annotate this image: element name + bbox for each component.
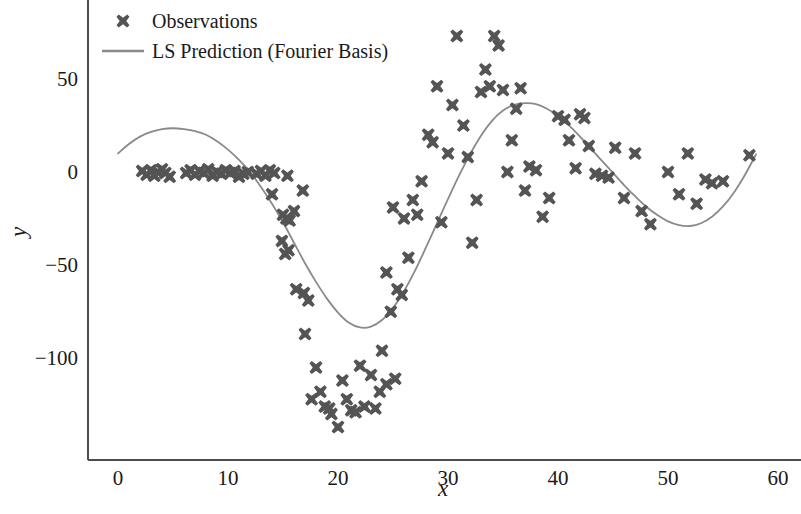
observation-point (266, 188, 279, 201)
y-tick-2: −50 (45, 255, 78, 276)
chart-figure: 0102030405060 500−50−100 x y Observation… (0, 0, 801, 514)
axis-spines (88, 0, 801, 460)
observation-point (536, 210, 549, 223)
observation-point (387, 201, 400, 214)
observation-point (281, 169, 294, 182)
legend-label-ls-prediction: LS Prediction (Fourier Basis) (152, 40, 388, 63)
legend-marker-sample (100, 6, 146, 36)
observation-point (442, 147, 455, 160)
observation-point (618, 192, 631, 205)
x-tick-2: 20 (328, 468, 349, 489)
observation-point (380, 266, 393, 279)
observation-point (384, 305, 397, 318)
y-tick-1: 0 (68, 162, 79, 183)
observation-point (398, 212, 411, 225)
y-tick-0: 50 (57, 68, 78, 89)
observation-point (461, 151, 474, 164)
observation-point (415, 175, 428, 188)
x-marker-icon (117, 15, 130, 28)
observation-point (411, 208, 424, 221)
legend-item-observations: Observations (100, 6, 430, 36)
observation-point (470, 193, 483, 206)
observation-point (354, 359, 367, 372)
observation-point (501, 166, 514, 179)
observation-point (514, 82, 527, 95)
observation-point (376, 344, 389, 357)
y-axis-label: y (7, 227, 30, 237)
observation-point (163, 170, 176, 183)
observation-point (743, 149, 756, 162)
observation-markers (136, 30, 756, 434)
observation-point (569, 162, 582, 175)
observation-point (365, 368, 378, 381)
observation-point (340, 393, 353, 406)
observation-point (662, 166, 675, 179)
observation-point (497, 84, 510, 97)
x-tick-5: 50 (658, 468, 679, 489)
legend-line-sample (100, 36, 146, 66)
legend-item-ls-prediction: LS Prediction (Fourier Basis) (100, 36, 430, 66)
observation-point (543, 192, 556, 205)
observation-point (332, 421, 345, 434)
observation-point (310, 361, 323, 374)
observation-point (582, 139, 595, 152)
x-tick-4: 40 (548, 468, 569, 489)
legend-label-observations: Observations (152, 10, 258, 33)
observation-point (369, 402, 382, 415)
observation-point (578, 112, 591, 125)
observation-point (479, 63, 492, 76)
observation-point (336, 374, 349, 387)
observation-point (406, 193, 419, 206)
x-axis-label: x (438, 477, 448, 500)
observation-point (505, 134, 518, 147)
observation-point (296, 184, 309, 197)
x-tick-1: 10 (218, 468, 239, 489)
observation-point (563, 134, 576, 147)
observation-point (717, 175, 730, 188)
observation-point (446, 98, 459, 111)
observation-point (431, 80, 444, 93)
x-tick-0: 0 (113, 468, 124, 489)
x-tick-6: 60 (768, 468, 789, 489)
observation-point (450, 30, 463, 43)
y-tick-3: −100 (35, 348, 78, 369)
observation-point (629, 147, 642, 160)
observation-point (395, 288, 408, 301)
observation-point (681, 147, 694, 160)
observation-point (609, 141, 622, 154)
observation-point (644, 218, 657, 231)
observation-point (690, 197, 703, 210)
observation-point (299, 327, 312, 340)
observation-point (305, 393, 318, 406)
observation-point (519, 184, 532, 197)
observation-point (635, 205, 648, 218)
observation-point (402, 251, 415, 264)
plot-canvas (0, 0, 801, 514)
observation-point (673, 188, 686, 201)
observation-point (466, 236, 479, 249)
observation-point (457, 119, 470, 132)
chart-legend: Observations LS Prediction (Fourier Basi… (100, 6, 430, 66)
